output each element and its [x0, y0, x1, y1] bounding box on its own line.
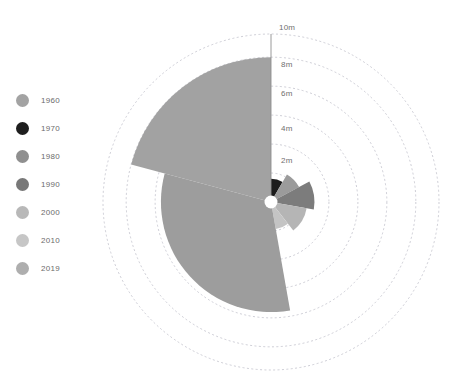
legend-item-1970[interactable]: 1970 — [16, 114, 96, 142]
legend-label: 1980 — [41, 152, 60, 161]
radial-tick-2m: 2m — [281, 156, 293, 165]
legend-label: 2019 — [41, 264, 60, 273]
legend-swatch-icon — [16, 122, 29, 135]
legend-item-2019[interactable]: 2019 — [16, 254, 96, 282]
legend: 1960197019801990200020102019 — [16, 86, 96, 282]
radial-tick-10m: 10m — [279, 23, 295, 32]
legend-item-2000[interactable]: 2000 — [16, 198, 96, 226]
radial-tick-6m: 6m — [281, 89, 293, 98]
legend-swatch-icon — [16, 206, 29, 219]
legend-swatch-icon — [16, 234, 29, 247]
legend-item-1960[interactable]: 1960 — [16, 86, 96, 114]
legend-item-1980[interactable]: 1980 — [16, 142, 96, 170]
center-dot — [265, 196, 278, 209]
legend-swatch-icon — [16, 178, 29, 191]
legend-label: 2010 — [41, 236, 60, 245]
legend-item-2010[interactable]: 2010 — [16, 226, 96, 254]
legend-label: 1990 — [41, 180, 60, 189]
polar-rose-chart-figure: 1960197019801990200020102019 10m8m6m4m2m — [0, 0, 467, 388]
radial-tick-4m: 4m — [281, 124, 293, 133]
center-hole — [265, 196, 278, 209]
radial-tick-8m: 8m — [281, 60, 293, 69]
legend-label: 2000 — [41, 208, 60, 217]
legend-item-1990[interactable]: 1990 — [16, 170, 96, 198]
legend-label: 1960 — [41, 96, 60, 105]
legend-swatch-icon — [16, 262, 29, 275]
legend-swatch-icon — [16, 150, 29, 163]
legend-swatch-icon — [16, 94, 29, 107]
wedge-1960[interactable] — [131, 57, 271, 202]
legend-label: 1970 — [41, 124, 60, 133]
